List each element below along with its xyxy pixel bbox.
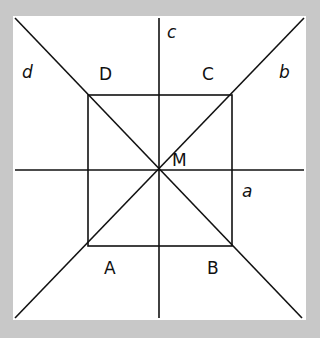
label-line-c: c [167,22,176,42]
label-line-b: b [279,62,290,82]
label-line-d: d [22,62,33,82]
label-center-m: M [172,150,187,170]
label-vertex-a: A [104,258,116,278]
geometry-diagram [0,0,320,338]
label-vertex-b: B [207,258,219,278]
label-vertex-c: C [202,64,214,84]
label-line-a: a [242,181,252,201]
label-vertex-d: D [99,64,112,84]
